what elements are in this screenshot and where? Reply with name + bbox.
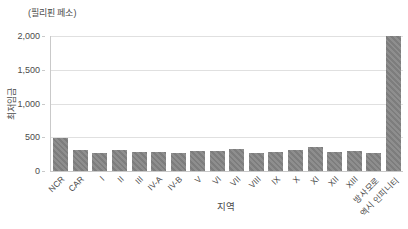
bar-XIII bbox=[347, 151, 362, 171]
x-tick-label: IV-A bbox=[146, 174, 164, 192]
bar-V bbox=[190, 151, 205, 171]
y-tick-label: 500 bbox=[0, 132, 40, 142]
x-tick-label: XII bbox=[326, 174, 340, 188]
bar-IV-A bbox=[151, 152, 166, 171]
x-tick-label: VI bbox=[211, 174, 224, 187]
y-axis-ticks: 05001,0001,5002,000 bbox=[0, 36, 46, 171]
y-tick-label: 1,000 bbox=[0, 99, 40, 109]
bar-I bbox=[92, 153, 107, 171]
bar-VIII bbox=[249, 153, 264, 171]
bar-IX bbox=[268, 152, 283, 171]
x-axis-title: 지역 bbox=[50, 199, 402, 213]
bar-II bbox=[112, 150, 127, 171]
bar-NCR bbox=[53, 138, 68, 171]
x-tick-label: II bbox=[115, 174, 125, 184]
bar-CAR bbox=[73, 150, 88, 171]
bar-IV-B bbox=[171, 153, 186, 171]
bar-방사모로 bbox=[366, 153, 381, 171]
x-tick-label: VIII bbox=[246, 174, 262, 190]
chart-container: (필리핀 페소) 최저임금 05001,0001,5002,000 NCRCAR… bbox=[0, 0, 408, 229]
x-tick-label: V bbox=[193, 174, 204, 185]
bar-III bbox=[132, 152, 147, 171]
bar-XI bbox=[308, 147, 323, 171]
x-tick-label: IX bbox=[269, 174, 282, 187]
gridline bbox=[51, 137, 403, 138]
x-tick-label: VII bbox=[228, 174, 242, 188]
y-tick-label: 1,500 bbox=[0, 65, 40, 75]
bar-엑시 인피니티 bbox=[386, 36, 401, 171]
y-tick-mark bbox=[42, 36, 45, 37]
x-tick-label: CAR bbox=[67, 174, 87, 194]
bar-VI bbox=[210, 151, 225, 171]
gridline bbox=[51, 104, 403, 105]
y-tick-mark bbox=[42, 137, 45, 138]
y-tick-mark bbox=[42, 70, 45, 71]
x-tick-label: I bbox=[97, 174, 106, 183]
x-tick-label: X bbox=[290, 174, 301, 185]
y-tick-mark bbox=[42, 104, 45, 105]
gridline bbox=[51, 70, 403, 71]
bar-X bbox=[288, 150, 303, 171]
x-tick-label: XI bbox=[308, 174, 321, 187]
x-tick-label: III bbox=[133, 174, 145, 186]
y-tick-label: 0 bbox=[0, 166, 40, 176]
x-tick-label: IV-B bbox=[166, 174, 184, 192]
bar-XII bbox=[327, 152, 342, 171]
plot-area bbox=[50, 36, 403, 172]
gridline bbox=[51, 36, 403, 37]
x-tick-label: NCR bbox=[47, 174, 67, 194]
bar-VII bbox=[229, 149, 244, 171]
y-tick-label: 2,000 bbox=[0, 31, 40, 41]
y-tick-mark bbox=[42, 171, 45, 172]
unit-label: (필리핀 페소) bbox=[28, 6, 77, 19]
